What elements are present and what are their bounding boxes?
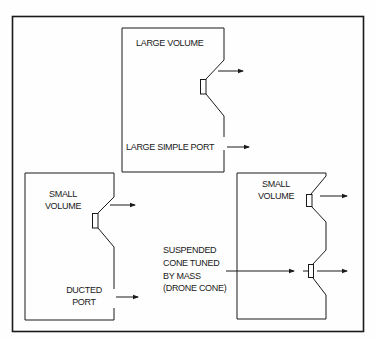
small-volume-label-line2: VOLUME bbox=[251, 190, 301, 203]
drone-cone-label-line4: (DRONE CONE) bbox=[163, 282, 226, 295]
small-volume-label-line2: VOLUME bbox=[38, 200, 88, 213]
large-volume-label: LARGE VOLUME bbox=[136, 37, 203, 50]
driver-cone-icon bbox=[307, 195, 313, 207]
enclosure-wall bbox=[311, 206, 326, 264]
drone-cone-label-line1: SUSPENDED bbox=[163, 244, 216, 257]
drone-cone-label-line2: CONE TUNED bbox=[163, 257, 219, 270]
small-volume-label-line1: SMALL bbox=[251, 178, 301, 191]
enclosure-wall bbox=[98, 228, 114, 289]
large-simple-port-label: LARGE SIMPLE PORT bbox=[126, 141, 214, 154]
drone-cone-label-line3: BY MASS bbox=[163, 270, 201, 283]
ducted-port-label-line1: DUCTED bbox=[62, 284, 106, 297]
enclosure-wall bbox=[206, 94, 224, 137]
driver-cone-icon bbox=[201, 80, 207, 95]
diagram-canvas: LARGE VOLUME LARGE SIMPLE PORT SMALL VOL… bbox=[0, 0, 375, 339]
small-volume-label-line1: SMALL bbox=[38, 188, 88, 201]
passive-radiator-icon bbox=[309, 265, 314, 278]
ducted-port-label-line2: PORT bbox=[62, 296, 106, 309]
driver-cone-icon bbox=[93, 214, 99, 229]
